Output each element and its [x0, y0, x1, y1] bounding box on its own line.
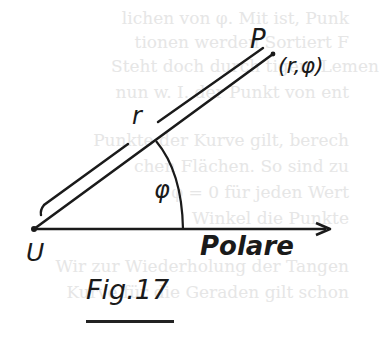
- axis-label: Polare: [200, 233, 294, 259]
- point-p: [271, 52, 276, 57]
- origin-label: U: [26, 240, 44, 265]
- origin-point: [31, 226, 37, 232]
- point-label: P: [250, 26, 266, 52]
- radius-label: r: [132, 104, 142, 128]
- angle-label: φ: [154, 178, 170, 202]
- coordinates-label: (r,φ): [278, 55, 324, 77]
- radius-dimension-line-lower: [41, 144, 128, 215]
- radius-dimension-line-upper: [158, 48, 263, 122]
- figure-caption: Fig.17: [86, 276, 169, 303]
- caption-underline: [86, 320, 174, 323]
